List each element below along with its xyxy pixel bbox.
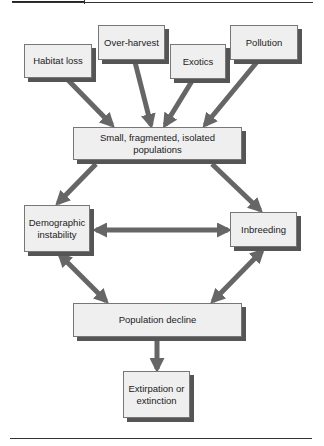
node-small-populations: Small, fragmented, isolated populations <box>73 127 242 160</box>
node-label: Small, fragmented, isolated populations <box>76 132 239 156</box>
node-pollution: Pollution <box>230 25 298 60</box>
node-extirpation: Extirpation or extinction <box>123 371 190 418</box>
node-demographic-instability: Demographic instability <box>24 205 90 252</box>
bottom-rule <box>10 438 312 439</box>
arrow-small-to-inbreeding <box>212 164 260 210</box>
node-inbreeding: Inbreeding <box>230 212 297 247</box>
node-label: Exotics <box>183 56 214 68</box>
node-exotics: Exotics <box>170 44 226 79</box>
node-over-harvest: Over-harvest <box>98 25 165 60</box>
node-label: Habitat loss <box>33 55 83 67</box>
node-label: Inbreeding <box>241 224 286 236</box>
arrow-inbreeding-decline <box>213 251 262 301</box>
arrow-habitat-to-small <box>68 80 112 125</box>
node-label: Extirpation or extinction <box>126 383 187 407</box>
arrow-small-to-demographic <box>58 164 96 203</box>
node-label: Pollution <box>246 37 282 49</box>
arrow-demographic-decline <box>60 255 106 301</box>
node-habitat-loss: Habitat loss <box>24 44 92 78</box>
node-population-decline: Population decline <box>73 303 242 337</box>
arrow-overharvest-to-small <box>135 62 151 125</box>
arrow-exotics-to-small <box>165 81 192 125</box>
node-label: Over-harvest <box>104 37 159 49</box>
node-label: Population decline <box>119 314 197 326</box>
node-label: Demographic instability <box>27 217 87 241</box>
